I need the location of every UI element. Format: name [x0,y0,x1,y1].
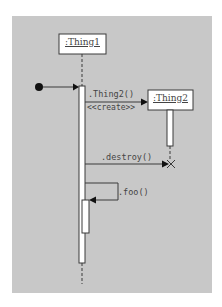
lifeline-label-thing1: :Thing1 [59,37,106,47]
nested-activation-bar [82,200,89,233]
create-stereotype-label: <<create>> [87,103,135,112]
self-message-label: .foo() [118,187,149,197]
found-message-dot-icon [35,83,43,91]
thing2-activation-bar [167,110,173,146]
thing1-activation-bar [79,86,85,263]
sequence-diagram: :Thing1 :Thing2 .Thing2() <<create>> .de… [0,0,222,307]
create-message-label: .Thing2() [88,89,134,99]
destroy-message-label: .destroy() [101,152,152,162]
lifeline-label-thing2: :Thing2 [148,93,193,103]
